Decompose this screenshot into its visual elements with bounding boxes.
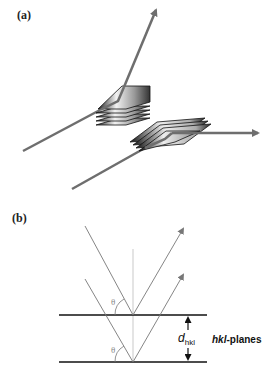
d-subscript: hkl [185, 338, 195, 347]
incident-ray-2 [85, 279, 133, 362]
planes-text: -planes [226, 334, 261, 345]
incident-beam-1 [23, 110, 100, 151]
incident-ray-1 [85, 226, 133, 315]
panel-b-label: (b) [12, 211, 27, 226]
d-symbol: d [178, 331, 185, 345]
reflected-ray-2 [133, 275, 183, 362]
reflected-ray-1 [133, 229, 183, 315]
theta-label-upper: θ [111, 297, 115, 307]
theta-arc-lower [115, 346, 124, 362]
theta-arc-upper [115, 299, 124, 315]
diffracted-beam-1 [124, 10, 156, 87]
panel-a-label: (a) [17, 8, 31, 23]
hkl-italic: hkl [212, 334, 226, 345]
incident-beam-2 [72, 148, 145, 189]
diagram-canvas [0, 0, 273, 373]
hkl-planes-label: hkl-planes [212, 334, 261, 345]
theta-label-lower: θ [111, 345, 115, 355]
panel-a-diagram [23, 10, 258, 189]
d-spacing-label: dhkl [178, 331, 195, 347]
